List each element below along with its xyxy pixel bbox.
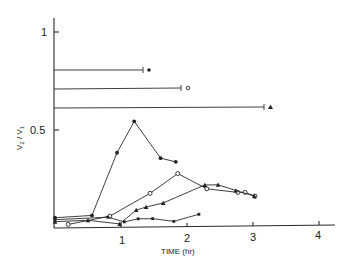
data-point-filled-circle (90, 214, 94, 218)
x-axis (54, 225, 335, 228)
y-tick-label-1: 1 (41, 26, 47, 38)
data-point-filled-square (106, 216, 109, 219)
x-tick-label-2: 2 (184, 232, 190, 244)
data-point-open-circle (205, 187, 209, 191)
x-axis-label: TIME (hr) (161, 247, 195, 256)
y-tick-label-05: 0.5 (30, 124, 45, 136)
data-point-filled-triangle (161, 201, 166, 205)
x-tick-label-1: 1 (119, 234, 125, 246)
x-tick-label-3: 3 (250, 231, 256, 243)
data-point-filled-circle (115, 151, 119, 155)
data-point-open-circle (66, 222, 70, 226)
data-point-filled-square (54, 218, 57, 221)
reference-bar-open-circle (54, 85, 190, 91)
series-filled-triangle (53, 183, 257, 226)
reference-bar-filled-triangle (54, 104, 273, 110)
x-tick-label-4: 4 (315, 229, 321, 241)
reference-bar-filled-circle (54, 67, 151, 73)
svg-text:V2 / V1: V2 / V1 (15, 125, 25, 150)
series-filled-circle (53, 119, 178, 219)
y-axis-label: V2 / V1 (15, 125, 25, 150)
data-point-filled-square (151, 217, 154, 220)
data-point-filled-circle (159, 156, 163, 160)
data-point-filled-circle (174, 160, 178, 164)
data-point-filled-square (172, 220, 175, 223)
data-point-open-circle (148, 191, 152, 195)
data-point-filled-square (197, 213, 200, 216)
series-layer (53, 119, 257, 226)
data-point-open-circle (176, 172, 180, 176)
data-point-filled-square (123, 220, 126, 223)
data-point-filled-circle (132, 119, 136, 123)
line-chart: 1 0.5 V2 / V1 1 2 3 4 TIME (hr) (0, 0, 352, 267)
data-point-filled-square (137, 217, 140, 220)
